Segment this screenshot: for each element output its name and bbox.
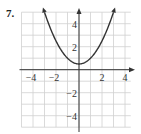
graph-figure: 7. −4−22442−2−4 <box>0 0 141 134</box>
y-tick-label: 2 <box>72 42 77 53</box>
x-axis-arrow-icon <box>129 67 135 72</box>
x-tick-label: 2 <box>100 72 105 83</box>
y-tick-label: −4 <box>66 111 77 122</box>
x-tick-label: −2 <box>49 72 60 83</box>
y-tick-label: −2 <box>66 88 77 99</box>
x-tick-label: 4 <box>123 72 128 83</box>
parabola-chart: 7. −4−22442−2−4 <box>0 0 141 134</box>
y-tick-label: 4 <box>72 19 77 30</box>
y-axis-arrow-icon <box>77 8 82 14</box>
problem-number: 7. <box>6 7 15 19</box>
x-tick-label: −4 <box>26 72 37 83</box>
axes <box>20 8 136 132</box>
